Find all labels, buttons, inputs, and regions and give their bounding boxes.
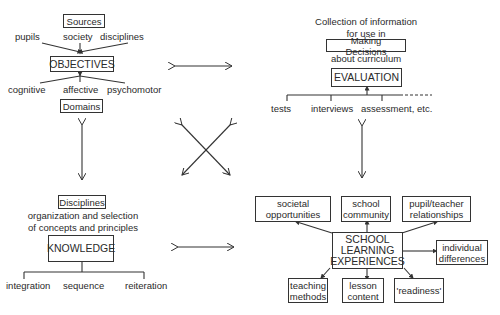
evaluation-caption-3: about curriculum <box>331 53 401 64</box>
objectives-title: OBJECTIVES <box>49 59 114 70</box>
method-assessment: assessment, etc. <box>361 103 432 114</box>
school-learning-experiences-box: SCHOOL LEARNING EXPERIENCES <box>332 232 403 269</box>
factor-individual-differences: individual differences <box>436 240 488 265</box>
principle-reiteration: reiteration <box>125 280 167 291</box>
knowledge-title: KNOWLEDGE <box>47 243 115 254</box>
factor-line: pupil/teacher <box>409 198 463 209</box>
domains-label: Domains <box>63 101 101 112</box>
principle-sequence: sequence <box>63 280 104 291</box>
method-tests: tests <box>271 103 291 114</box>
factor-school-community: school community <box>341 196 391 222</box>
factor-line: opportunities <box>266 209 320 220</box>
making-decisions-box: Making Decisions <box>326 39 406 52</box>
factor-readiness: 'readiness' <box>394 278 444 303</box>
knowledge-caption-1: organization and selection <box>28 210 138 221</box>
method-interviews: interviews <box>311 103 353 114</box>
sources-label-box: Sources <box>63 14 105 28</box>
input-society: society <box>63 31 93 42</box>
principle-integration: integration <box>6 280 50 291</box>
factor-line: teaching <box>290 280 326 291</box>
connector-lines <box>0 0 500 315</box>
factor-line: content <box>347 291 378 302</box>
factor-line: 'readiness' <box>397 285 442 296</box>
knowledge-caption-2: of concepts and principles <box>28 222 138 233</box>
input-pupils: pupils <box>15 31 40 42</box>
factor-line: differences <box>439 253 485 264</box>
factor-line: school <box>352 198 379 209</box>
disciplines-label-box: Disciplines <box>58 195 106 209</box>
evaluation-title: EVALUATION <box>334 72 399 83</box>
evaluation-box: EVALUATION <box>331 68 402 87</box>
factor-societal-opportunities: societal opportunities <box>255 196 331 222</box>
evaluation-caption-1: Collection of information <box>315 16 417 27</box>
knowledge-box: KNOWLEDGE <box>48 235 114 262</box>
disciplines-label: Disciplines <box>59 197 104 208</box>
factor-line: societal <box>277 198 309 209</box>
output-affective: affective <box>63 84 98 95</box>
factor-line: lesson <box>349 280 376 291</box>
output-cognitive: cognitive <box>8 84 46 95</box>
factor-line: community <box>343 209 389 220</box>
factor-teaching-methods: teaching methods <box>288 278 328 303</box>
input-disciplines: disciplines <box>100 31 144 42</box>
output-psychomotor: psychomotor <box>107 84 161 95</box>
factor-line: relationships <box>410 209 463 220</box>
factor-pupil-teacher-relationships: pupil/teacher relationships <box>402 196 471 222</box>
factor-lesson-content: lesson content <box>342 278 384 303</box>
domains-label-box: Domains <box>60 99 103 113</box>
factor-line: individual <box>442 242 482 253</box>
factor-line: methods <box>290 291 326 302</box>
experiences-title-line: EXPERIENCES <box>330 256 405 267</box>
sources-label: Sources <box>67 16 102 27</box>
objectives-box: OBJECTIVES <box>50 56 114 72</box>
